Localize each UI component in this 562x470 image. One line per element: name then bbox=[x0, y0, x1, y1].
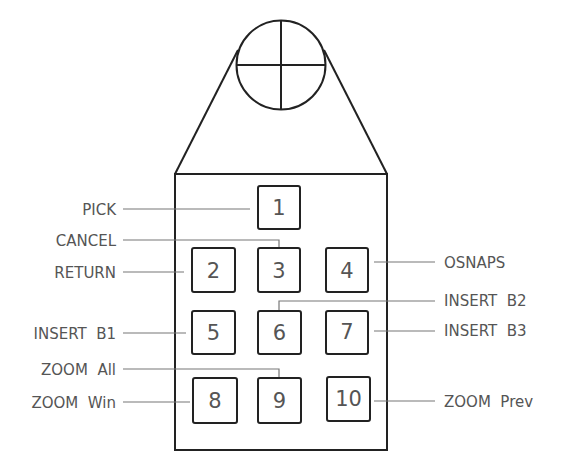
svg-text:3: 3 bbox=[272, 259, 285, 283]
svg-text:5: 5 bbox=[207, 321, 220, 345]
button-6[interactable]: 6 bbox=[258, 311, 301, 354]
button-2[interactable]: 2 bbox=[192, 248, 235, 292]
button-7[interactable]: 7 bbox=[326, 311, 368, 354]
button-9[interactable]: 9 bbox=[258, 378, 301, 423]
puck-head bbox=[175, 20, 387, 174]
label-zoom-all: ZOOM All bbox=[41, 361, 116, 379]
button-5[interactable]: 5 bbox=[192, 311, 235, 354]
label-insert-b1: INSERT B1 bbox=[33, 325, 116, 343]
button-1[interactable]: 1 bbox=[258, 186, 300, 229]
svg-text:1: 1 bbox=[272, 196, 285, 220]
puck-diagram: 1 2 3 4 5 6 7 8 9 10 PICK CANCEL RETURN … bbox=[0, 0, 562, 470]
crosshair-icon bbox=[237, 20, 326, 110]
label-cancel: CANCEL bbox=[56, 232, 117, 250]
button-4[interactable]: 4 bbox=[326, 248, 368, 292]
label-insert-b2: INSERT B2 bbox=[444, 292, 527, 310]
svg-text:7: 7 bbox=[340, 320, 353, 344]
label-pick: PICK bbox=[82, 201, 117, 219]
button-10[interactable]: 10 bbox=[327, 377, 370, 421]
svg-text:6: 6 bbox=[273, 321, 286, 345]
button-8[interactable]: 8 bbox=[193, 378, 237, 423]
svg-text:10: 10 bbox=[335, 387, 362, 411]
label-zoom-prev: ZOOM Prev bbox=[444, 393, 533, 411]
label-return: RETURN bbox=[54, 264, 116, 282]
svg-text:2: 2 bbox=[207, 259, 220, 283]
label-zoom-win: ZOOM Win bbox=[31, 394, 116, 412]
svg-text:9: 9 bbox=[273, 389, 286, 413]
svg-text:8: 8 bbox=[208, 389, 221, 413]
label-osnaps: OSNAPS bbox=[444, 254, 505, 272]
label-insert-b3: INSERT B3 bbox=[444, 322, 527, 340]
svg-text:4: 4 bbox=[340, 259, 353, 283]
button-3[interactable]: 3 bbox=[258, 248, 300, 292]
